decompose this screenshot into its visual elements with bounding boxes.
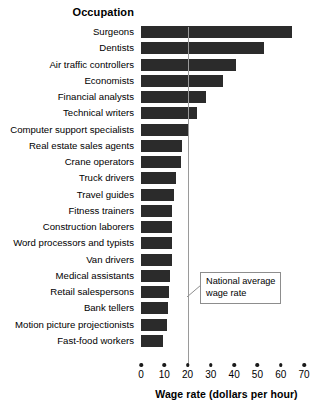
bar-rows: SurgeonsDentistsAir traffic controllersE…	[0, 25, 323, 355]
annotation-line-2: wage rate	[206, 288, 275, 300]
bar-category-label: Word processors and typists	[0, 236, 134, 249]
bar-category-label: Technical writers	[0, 106, 134, 119]
bar	[141, 286, 169, 298]
bar	[141, 26, 292, 38]
bar-row: Truck drivers	[0, 171, 323, 187]
annotation-leader-line	[187, 285, 201, 297]
bar	[141, 237, 172, 249]
bar-row: Computer support specialists	[0, 123, 323, 139]
wage-rate-bar-chart: Occupation SurgeonsDentistsAir traffic c…	[0, 0, 323, 418]
bar-row: Construction laborers	[0, 220, 323, 236]
bar-row: Air traffic controllers	[0, 58, 323, 74]
bar-category-label: Travel guides	[0, 188, 134, 201]
bar	[141, 221, 172, 233]
annotation-line-1: National average	[206, 276, 275, 288]
x-axis-tick-mark	[302, 363, 306, 367]
bar	[141, 335, 163, 347]
bar	[141, 140, 182, 152]
bar-row: Fitness trainers	[0, 204, 323, 220]
bar-row: Economists	[0, 74, 323, 90]
x-axis-tick-mark	[139, 363, 143, 367]
x-axis-tick-mark	[209, 363, 213, 367]
bar-category-label: Bank tellers	[0, 301, 134, 314]
bar-category-label: Real estate sales agents	[0, 139, 134, 152]
x-axis-tick-mark	[279, 363, 283, 367]
x-axis-tick-mark	[232, 363, 236, 367]
bar-category-label: Dentists	[0, 41, 134, 54]
bar-category-label: Computer support specialists	[0, 123, 134, 136]
x-axis: Wage rate (dollars per hour) 01020304050…	[0, 360, 323, 418]
x-axis-title: Wage rate (dollars per hour)	[130, 388, 323, 400]
bar-category-label: Truck drivers	[0, 171, 134, 184]
bar-row: Dentists	[0, 41, 323, 57]
bar	[141, 156, 181, 168]
bar-category-label: Fast-food workers	[0, 334, 134, 347]
bar-category-label: Medical assistants	[0, 269, 134, 282]
bar-row: Financial analysts	[0, 90, 323, 106]
bar-row: Real estate sales agents	[0, 139, 323, 155]
bar-category-label: Crane operators	[0, 155, 134, 168]
bar-category-label: Van drivers	[0, 253, 134, 266]
bar	[141, 205, 172, 217]
x-axis-tick-mark	[256, 363, 260, 367]
bar-category-label: Surgeons	[0, 25, 134, 38]
national-average-reference-line	[188, 27, 189, 364]
bar	[141, 189, 174, 201]
national-average-annotation: National average wage rate	[200, 272, 281, 304]
bar	[141, 124, 188, 136]
bar-row: Surgeons	[0, 25, 323, 41]
bar-row: Word processors and typists	[0, 236, 323, 252]
bar-row: Van drivers	[0, 253, 323, 269]
bar	[141, 59, 236, 71]
bar	[141, 75, 223, 87]
bar	[141, 172, 176, 184]
bar-category-label: Motion picture projectionists	[0, 318, 134, 331]
x-axis-tick-mark	[163, 363, 167, 367]
bar-category-label: Fitness trainers	[0, 204, 134, 217]
bar-row: Travel guides	[0, 188, 323, 204]
bar-row: Technical writers	[0, 106, 323, 122]
bar	[141, 42, 264, 54]
bar-row: Fast-food workers	[0, 334, 323, 350]
y-axis-title: Occupation	[0, 6, 134, 18]
bar-category-label: Retail salespersons	[0, 285, 134, 298]
bar	[141, 254, 172, 266]
bar	[141, 91, 206, 103]
x-axis-tick-mark	[186, 363, 190, 367]
bar-category-label: Construction laborers	[0, 220, 134, 233]
bar-category-label: Air traffic controllers	[0, 58, 134, 71]
x-axis-tick-label: 70	[289, 369, 319, 380]
bar	[141, 302, 168, 314]
bar-category-label: Financial analysts	[0, 90, 134, 103]
bar-row: Crane operators	[0, 155, 323, 171]
bar	[141, 270, 170, 282]
bar-row: Motion picture projectionists	[0, 318, 323, 334]
bar	[141, 319, 167, 331]
bar-category-label: Economists	[0, 74, 134, 87]
